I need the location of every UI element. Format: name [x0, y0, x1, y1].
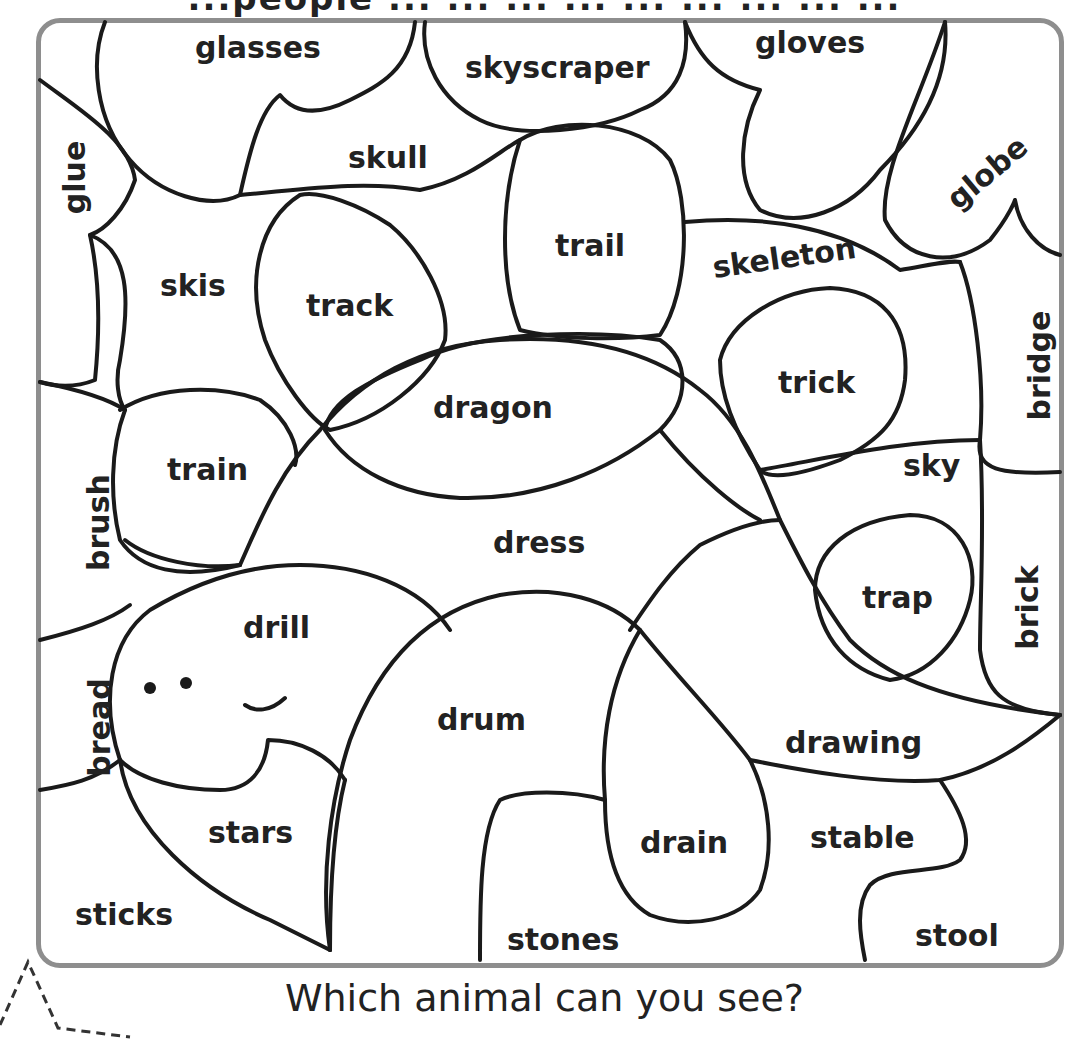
- region-word-stool: stool: [915, 918, 999, 953]
- region-word-sky: sky: [903, 448, 960, 483]
- question-text: Which animal can you see?: [0, 976, 1089, 1020]
- region-word-drawing: drawing: [785, 725, 922, 760]
- region-word-bread: bread: [82, 678, 117, 776]
- region-word-bridge: bridge: [1022, 311, 1057, 421]
- region-word-dress: dress: [493, 525, 585, 560]
- region-word-brick: brick: [1010, 565, 1045, 649]
- region-word-trail: trail: [555, 228, 625, 263]
- region-word-sticks: sticks: [75, 897, 173, 932]
- region-word-skull: skull: [348, 140, 428, 175]
- region-word-drill: drill: [243, 610, 310, 645]
- region-word-stars: stars: [208, 815, 293, 850]
- region-word-stable: stable: [810, 820, 915, 855]
- region-word-skyscraper: skyscraper: [465, 50, 650, 85]
- region-word-trap: trap: [862, 580, 933, 615]
- region-word-train: train: [167, 452, 248, 487]
- region-word-drum: drum: [437, 702, 526, 737]
- region-word-glue: glue: [57, 141, 92, 214]
- region-word-track: track: [306, 288, 393, 323]
- region-word-drain: drain: [640, 825, 728, 860]
- region-word-dragon: dragon: [433, 390, 553, 425]
- puzzle-outline-drawing: [0, 0, 1089, 1000]
- region-word-trick: trick: [778, 365, 855, 400]
- region-word-brush: brush: [81, 474, 116, 571]
- turtle-eye-left-icon: [144, 682, 156, 694]
- region-word-glasses: glasses: [195, 30, 321, 65]
- region-word-stones: stones: [507, 922, 619, 957]
- region-word-skis: skis: [160, 268, 226, 303]
- turtle-eye-right-icon: [180, 677, 192, 689]
- region-word-gloves: gloves: [755, 25, 865, 60]
